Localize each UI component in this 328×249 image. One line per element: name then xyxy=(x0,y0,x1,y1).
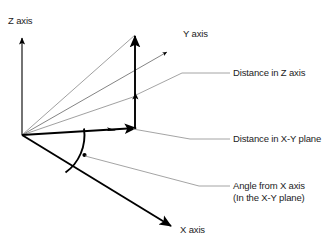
z-axis-label: Z axis xyxy=(8,15,32,27)
angle-arc xyxy=(66,129,85,173)
callout-angle-from-x-axis: Angle from X axis (In the X-Y plane) xyxy=(233,180,305,204)
callout-distance-in-xy-plane: Distance in X-Y plane xyxy=(233,133,321,145)
callout-angle-primary-text: Angle from X axis xyxy=(233,180,305,191)
callout-angle-secondary-text: (In the X-Y plane) xyxy=(233,192,305,204)
y-axis-line xyxy=(22,52,167,135)
leader-line-z-distance xyxy=(136,73,230,95)
diagram-canvas: Z axis Y axis X axis Distance in Z axis … xyxy=(0,0,328,249)
callout-distance-in-z-axis: Distance in Z axis xyxy=(233,67,305,79)
leader-line-xy-distance xyxy=(133,129,230,139)
radius-line-to-point xyxy=(22,35,135,135)
x-axis-label: X axis xyxy=(180,224,205,236)
y-axis-label: Y axis xyxy=(183,28,208,40)
leader-line-angle xyxy=(85,156,230,186)
x-axis-line xyxy=(22,135,171,226)
diagram-vector-graphic xyxy=(0,0,328,249)
